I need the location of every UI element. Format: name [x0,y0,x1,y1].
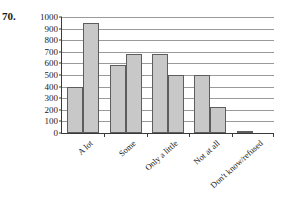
x-category-label: A lot [76,138,95,157]
bar [83,23,99,133]
y-tick-label: 500 [45,70,59,80]
x-tick-mark [189,133,190,137]
y-tick-label: 1000 [40,12,58,22]
y-tick-label: 200 [45,105,59,115]
y-tick-label: 900 [45,24,59,34]
problem-number: 70. [2,10,16,22]
y-tick-mark [59,109,63,110]
y-tick-label: 800 [45,35,59,45]
y-tick-label: 400 [45,82,59,92]
x-category-label: Only a little [143,138,180,173]
y-tick-mark [59,28,63,29]
y-tick-mark [59,51,63,52]
x-tick-mark [273,133,274,137]
y-tick-label: 700 [45,47,59,57]
y-tick-mark [59,17,63,18]
bar [152,54,168,133]
bar [194,75,210,133]
bar [110,65,126,133]
y-tick-mark [59,63,63,64]
y-tick-mark [59,121,63,122]
y-tick-mark [59,98,63,99]
bar [67,87,83,133]
x-tick-mark [104,133,105,137]
y-tick-label: 0 [54,128,59,138]
gridline [62,17,274,18]
y-tick-mark [59,75,63,76]
bar [126,54,142,133]
x-category-label: Not at all [192,138,222,167]
bar [210,107,226,133]
y-tick-mark [59,133,63,134]
chart-page: 70. 01002003004005006007008009001000 A l… [0,0,288,201]
bar [237,131,253,133]
x-tick-mark [232,133,233,137]
y-tick-label: 100 [45,116,59,126]
bar [168,75,184,133]
plot-area: 01002003004005006007008009001000 A lotSo… [61,17,274,134]
x-category-label: Some [116,138,137,158]
x-tick-mark [147,133,148,137]
y-tick-mark [59,40,63,41]
y-tick-mark [59,86,63,87]
y-tick-label: 600 [45,58,59,68]
y-tick-label: 300 [45,93,59,103]
